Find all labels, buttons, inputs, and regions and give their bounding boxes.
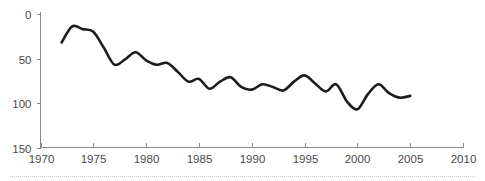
x-tick-label-2010: 2010	[451, 153, 477, 165]
x-tick-label-1980: 1980	[134, 153, 160, 165]
y-tick-label-50: 100	[12, 98, 31, 110]
line-chart-plot: 150100500 197019751980198519901995200020…	[0, 0, 485, 181]
footer-divider	[10, 176, 475, 177]
x-tick-label-1975: 1975	[81, 153, 107, 165]
x-axis-tick-labels: 197019751980198519901995200020052010	[29, 153, 477, 165]
x-tick-label-1995: 1995	[293, 153, 319, 165]
y-axis-tick-labels: 150100500	[12, 9, 31, 155]
y-tick-label-150: 0	[25, 9, 31, 21]
x-tick-label-2000: 2000	[345, 153, 371, 165]
x-tick-label-1970: 1970	[29, 153, 55, 165]
x-tick-label-1990: 1990	[240, 153, 266, 165]
y-axis-ticks	[37, 15, 41, 149]
x-tick-label-2005: 2005	[398, 153, 424, 165]
data-series-line	[62, 26, 411, 110]
y-tick-label-100: 50	[19, 54, 32, 66]
x-axis-ticks	[42, 143, 464, 148]
chart-container: 150100500 197019751980198519901995200020…	[0, 0, 485, 181]
x-tick-label-1985: 1985	[187, 153, 213, 165]
